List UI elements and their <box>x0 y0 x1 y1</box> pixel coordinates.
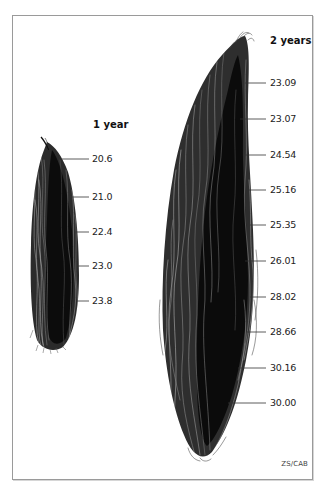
measurement-2y-5: 25.35 <box>270 219 296 231</box>
image-credit: ZS/CAB <box>281 460 308 468</box>
measurement-1y-1: 20.6 <box>92 153 112 165</box>
measurement-2y-9: 30.16 <box>270 362 296 374</box>
measurement-1y-3: 22.4 <box>92 226 112 238</box>
fiber-samples-illustration <box>0 0 322 489</box>
one-year-fiber-sample <box>30 137 79 354</box>
measurement-2y-7: 28.02 <box>270 291 296 303</box>
measurement-2y-1: 23.09 <box>270 77 296 89</box>
two-years-label: 2 years <box>270 35 311 47</box>
measurement-2y-2: 23.07 <box>270 113 296 125</box>
measurement-2y-4: 25.16 <box>270 184 296 196</box>
two-years-fiber-sample <box>159 32 258 461</box>
measurement-2y-8: 28.66 <box>270 326 296 338</box>
measurement-1y-2: 21.0 <box>92 191 112 203</box>
measurement-2y-10: 30.00 <box>270 397 296 409</box>
measurement-2y-3: 24.54 <box>270 149 296 161</box>
measurement-1y-5: 23.8 <box>92 295 112 307</box>
measurement-1y-4: 23.0 <box>92 260 112 272</box>
measurement-2y-6: 26.01 <box>270 255 296 267</box>
one-year-label: 1 year <box>93 119 128 131</box>
